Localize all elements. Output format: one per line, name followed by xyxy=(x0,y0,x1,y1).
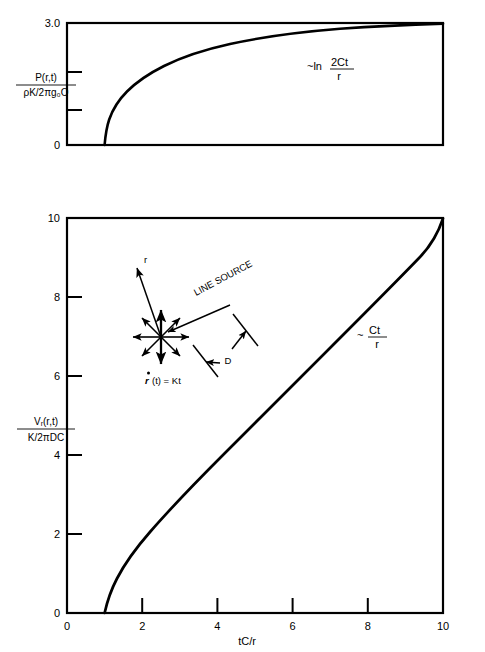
bottom-panel-y-axis-denominator: K/2πDC xyxy=(28,432,64,443)
bottom-panel-ytick-label-6: 6 xyxy=(54,370,60,382)
line-source-schematic: r LINE SOURCE D xyxy=(133,254,258,386)
top-panel-ytick-label-3: 3.0 xyxy=(45,17,60,29)
rate-equation-symbol: r xyxy=(145,375,150,386)
dimension-label: D xyxy=(225,355,232,366)
bottom-panel-xtick-label-8: 8 xyxy=(365,620,371,632)
bottom-panel-ytick-label-10: 10 xyxy=(48,212,60,224)
dimension-boundary-inner xyxy=(193,345,218,377)
bottom-panel-xtick-label-10: 10 xyxy=(437,620,449,632)
dimension-boundary-outer xyxy=(233,314,258,346)
bottom-panel-xtick-label-6: 6 xyxy=(290,620,296,632)
radial-rays xyxy=(133,310,189,364)
figure-svg: 3.0 0 P(r,t) ρK/2πg₀O ~ln 2Ct r 0 2 xyxy=(0,0,485,652)
bottom-panel-y-axis-numerator: Vᵣ(r,t) xyxy=(34,416,58,427)
bottom-panel-annotation-numerator: Ct xyxy=(369,324,380,336)
top-panel-annotation-numerator: 2Ct xyxy=(331,56,348,68)
rate-equation-body: (t) = Kt xyxy=(152,375,181,386)
bottom-panel-frame xyxy=(67,218,443,613)
line-source-label: LINE SOURCE xyxy=(192,258,254,298)
dimension-arrow-inner xyxy=(206,362,220,363)
radius-arrow xyxy=(137,268,161,337)
figure-root: 3.0 0 P(r,t) ρK/2πg₀O ~ln 2Ct r 0 2 xyxy=(0,0,485,652)
bottom-panel-annotation-denominator: r xyxy=(375,338,379,350)
top-panel-y-axis-denominator: ρK/2πg₀O xyxy=(23,87,68,98)
bottom-panel-ytick-label-4: 4 xyxy=(54,449,60,461)
rate-equation: r (t) = Kt xyxy=(145,372,181,387)
top-panel-frame xyxy=(67,23,443,145)
top-panel-y-axis-numerator: P(r,t) xyxy=(35,72,57,83)
bottom-panel-ytick-label-0: 0 xyxy=(54,607,60,619)
top-panel-annotation-prefix: ~ln xyxy=(307,60,322,72)
radius-arrow-label: r xyxy=(144,254,147,265)
bottom-panel-annotation-prefix: ~ xyxy=(357,329,363,341)
top-panel-annotation: ~ln 2Ct r xyxy=(307,56,354,82)
bottom-panel-ytick-label-2: 2 xyxy=(54,528,60,540)
top-panel-ytick-label-0: 0 xyxy=(54,139,60,151)
top-panel-curve xyxy=(105,24,443,145)
bottom-panel-xtick-label-0: 0 xyxy=(64,620,70,632)
line-source-leader xyxy=(168,305,230,332)
dimension-arrow-outer xyxy=(232,331,246,349)
bottom-panel-ytick-label-8: 8 xyxy=(54,291,60,303)
bottom-panel-curve xyxy=(105,219,443,614)
ray-se xyxy=(161,337,180,356)
bottom-panel: 0 2 4 6 8 10 0 2 4 6 8 10 tC/r Vᵣ(r,t) K… xyxy=(17,212,449,647)
bottom-panel-x-axis-label: tC/r xyxy=(238,635,256,647)
bottom-panel-annotation: ~ Ct r xyxy=(357,324,387,350)
ray-sw xyxy=(142,337,161,356)
top-panel-annotation-denominator: r xyxy=(337,70,341,82)
bottom-panel-xtick-label-2: 2 xyxy=(139,620,145,632)
top-panel: 3.0 0 P(r,t) ρK/2πg₀O ~ln 2Ct r xyxy=(16,17,443,151)
bottom-panel-xtick-label-4: 4 xyxy=(214,620,220,632)
